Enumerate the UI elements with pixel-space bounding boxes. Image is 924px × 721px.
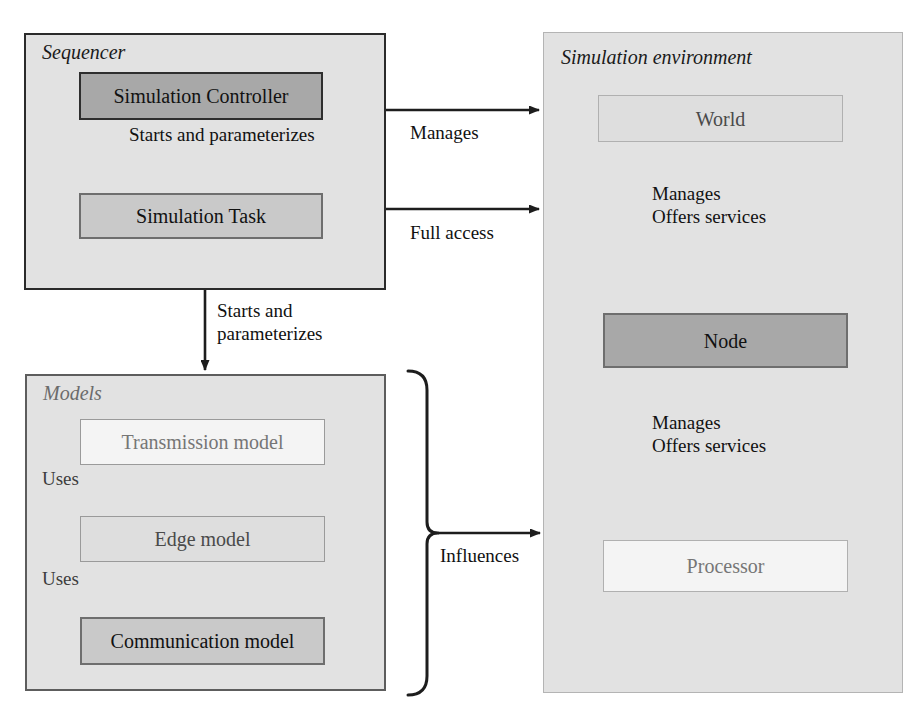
node-simulation-task[interactable]: Simulation Task (79, 193, 323, 239)
node-transmission-model[interactable]: Transmission model (80, 419, 325, 465)
edge-label-manages-world: Manages (652, 183, 721, 204)
edge-label-offers-services-node: Offers services (652, 435, 766, 456)
node-communication-model[interactable]: Communication model (80, 617, 325, 665)
edge-label-offers-services-world: Offers services (652, 206, 766, 227)
node-edge-model[interactable]: Edge model (80, 516, 325, 562)
node-simulation-controller[interactable]: Simulation Controller (79, 72, 323, 120)
group-simulation-environment-title: Simulation environment (561, 47, 752, 67)
edge-label-manages-node: Manages (652, 412, 721, 433)
models-grouping-bracket (408, 371, 438, 695)
edge-label-full-access: Full access (410, 222, 494, 243)
edge-label-starts-and-parameterizes: Starts and parameterizes (129, 124, 315, 145)
diagram-canvas: Sequencer Simulation Controller Simulati… (0, 0, 924, 721)
node-world[interactable]: World (598, 95, 843, 142)
edge-label-manages-controller: Manages (410, 122, 479, 143)
group-models-title: Models (43, 383, 102, 403)
edge-label-parameterizes: parameterizes (217, 323, 322, 344)
edge-label-starts-and: Starts and (217, 300, 292, 321)
node-processor[interactable]: Processor (603, 540, 848, 592)
group-sequencer-title: Sequencer (42, 42, 125, 62)
edge-label-influences: Influences (440, 545, 519, 566)
node-node[interactable]: Node (603, 313, 848, 368)
edge-label-uses-transmission: Uses (42, 468, 79, 489)
edge-label-uses-edge: Uses (42, 568, 79, 589)
